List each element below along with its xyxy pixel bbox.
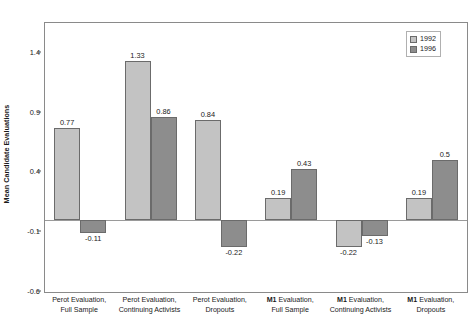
- bar-value-label: 1.33: [130, 51, 144, 60]
- bar-value-label: 0.19: [271, 188, 285, 197]
- legend-item-1992: 1992: [410, 34, 436, 44]
- x-axis-category-label-line: M1 Evaluation,: [330, 296, 392, 306]
- bar: [291, 169, 317, 220]
- bar: [125, 61, 151, 220]
- x-axis-category-label: Perot Evaluation,Full Sample: [52, 296, 106, 315]
- bar: [432, 160, 458, 220]
- x-axis-category-label: M1 Evaluation,Full Sample: [267, 296, 314, 315]
- legend-swatch-1992: [410, 36, 417, 43]
- x-axis-category-label-line: Dropouts: [193, 306, 247, 315]
- zero-baseline: [45, 220, 467, 221]
- bar: [221, 220, 247, 246]
- legend-label-1992: 1992: [420, 34, 436, 44]
- bar-value-label: -0.22: [340, 248, 357, 257]
- y-axis-tick-mark: [37, 171, 41, 172]
- x-axis-category-label-line: M1 Evaluation,: [267, 296, 314, 306]
- bar: [151, 117, 177, 220]
- x-axis-category-label-line: Perot Evaluation,: [193, 296, 247, 306]
- bar-value-label: 0.86: [156, 107, 170, 116]
- bar-value-label: 0.43: [297, 159, 311, 168]
- legend-swatch-1996: [410, 46, 417, 53]
- x-axis-category-label-line: Continuing Activists: [330, 306, 392, 315]
- bar: [406, 198, 432, 221]
- x-axis-category-label-line: Dropouts: [407, 306, 454, 315]
- legend: 1992 1996: [406, 31, 441, 57]
- bar-value-label: 0.84: [201, 110, 215, 119]
- y-axis-tick-labels: 1.40.90.4-0.1-0.6: [8, 0, 40, 313]
- y-axis-tick-mark: [37, 291, 41, 292]
- bar: [362, 220, 388, 236]
- x-axis-category-label-line: Full Sample: [52, 306, 106, 315]
- bar-value-label: -0.11: [85, 234, 101, 243]
- bar: [80, 220, 106, 233]
- x-axis-category-label-line: Continuing Activists: [119, 306, 181, 315]
- bar: [265, 198, 291, 221]
- bar: [195, 120, 221, 220]
- plot-area: 0.77-0.111.330.860.84-0.220.190.43-0.22-…: [44, 22, 468, 293]
- bar-value-label: -0.13: [366, 237, 383, 246]
- bar-value-label: 0.19: [412, 188, 426, 197]
- legend-label-1996: 1996: [420, 44, 436, 54]
- y-axis-tick-mark: [37, 231, 41, 232]
- bar-value-label: 0.5: [440, 150, 450, 159]
- y-axis-tick-mark: [37, 111, 41, 112]
- x-axis-category-label-line: Perot Evaluation,: [119, 296, 181, 306]
- bar: [336, 220, 362, 246]
- x-axis-category-label: M1 Evaluation,Dropouts: [407, 296, 454, 315]
- bar-value-label: -0.22: [225, 248, 242, 257]
- x-axis-category-label-line: Perot Evaluation,: [52, 296, 106, 306]
- legend-item-1996: 1996: [410, 44, 436, 54]
- x-axis-category-label-line: M1 Evaluation,: [407, 296, 454, 306]
- x-axis-category-label: M1 Evaluation,Continuing Activists: [330, 296, 392, 315]
- x-axis-category-label: Perot Evaluation,Continuing Activists: [119, 296, 181, 315]
- bar: [54, 128, 80, 220]
- bar-value-label: 0.77: [60, 118, 74, 127]
- x-axis-category-label: Perot Evaluation,Dropouts: [193, 296, 247, 315]
- y-axis-tick-mark: [37, 51, 41, 52]
- x-axis-category-label-line: Full Sample: [267, 306, 314, 315]
